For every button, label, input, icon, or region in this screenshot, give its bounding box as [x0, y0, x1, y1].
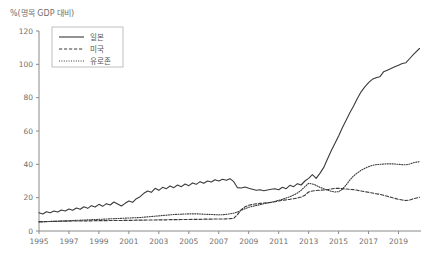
y-tick-label: 60 — [23, 127, 33, 136]
y-tick-label: 80 — [23, 93, 33, 102]
legend-label-0: 일본 — [90, 33, 104, 42]
x-tick-label: 2019 — [389, 237, 408, 246]
series-line-2 — [39, 162, 420, 222]
y-tick-label: 120 — [19, 27, 34, 36]
legend-box — [52, 27, 123, 67]
x-tick-label: 2011 — [269, 237, 288, 246]
y-axis-title: %(명목 GDP 대비) — [10, 8, 74, 18]
x-tick-label: 2017 — [359, 237, 378, 246]
x-tick-label: 2013 — [299, 237, 318, 246]
x-tick-label: 2007 — [209, 237, 228, 246]
x-tick-label: 2003 — [149, 237, 168, 246]
series-line-1 — [39, 188, 420, 221]
chart-container: %(명목 GDP 대비)0204060801001201995199719992… — [0, 0, 428, 267]
y-tick-label: 40 — [23, 160, 33, 169]
y-tick-label: 20 — [23, 193, 33, 202]
x-tick-label: 2005 — [179, 237, 198, 246]
x-tick-label: 2001 — [119, 237, 138, 246]
x-tick-label: 1999 — [89, 237, 108, 246]
x-tick-label: 2009 — [239, 237, 258, 246]
line-chart: %(명목 GDP 대비)0204060801001201995199719992… — [0, 0, 428, 267]
series-line-0 — [39, 49, 420, 215]
legend-label-1: 미국 — [90, 45, 104, 54]
x-tick-label: 2015 — [329, 237, 348, 246]
y-tick-label: 100 — [19, 60, 34, 69]
y-tick-label: 0 — [28, 227, 33, 236]
legend-label-2: 유로존 — [90, 57, 111, 66]
x-tick-label: 1995 — [29, 237, 48, 246]
x-tick-label: 1997 — [59, 237, 78, 246]
